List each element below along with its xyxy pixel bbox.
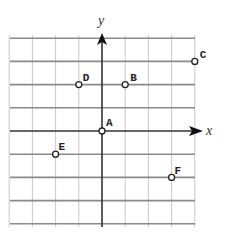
point-c: C (192, 49, 207, 64)
point-label: C (200, 49, 207, 61)
point-label: D (83, 72, 90, 84)
point-label: F (175, 165, 182, 177)
point-marker-icon (76, 82, 82, 88)
x-axis-label: x (205, 123, 213, 138)
point-label: B (130, 72, 137, 84)
point-marker-icon (122, 82, 128, 88)
point-label: A (106, 117, 113, 129)
point-label: E (59, 141, 66, 153)
point-marker-icon (192, 58, 198, 64)
coordinate-grid: x y ABCDEF (0, 0, 225, 239)
point-marker-icon (99, 128, 105, 134)
points: ABCDEF (53, 49, 207, 180)
y-axis-label: y (96, 13, 105, 28)
